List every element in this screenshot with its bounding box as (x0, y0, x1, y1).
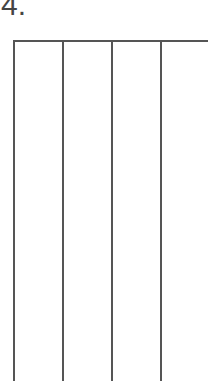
table-column-line-1 (13, 40, 15, 381)
blank-table-grid (0, 0, 208, 381)
table-column-line-3 (111, 40, 113, 381)
table-column-line-4 (160, 40, 162, 381)
table-column-line-2 (62, 40, 64, 381)
